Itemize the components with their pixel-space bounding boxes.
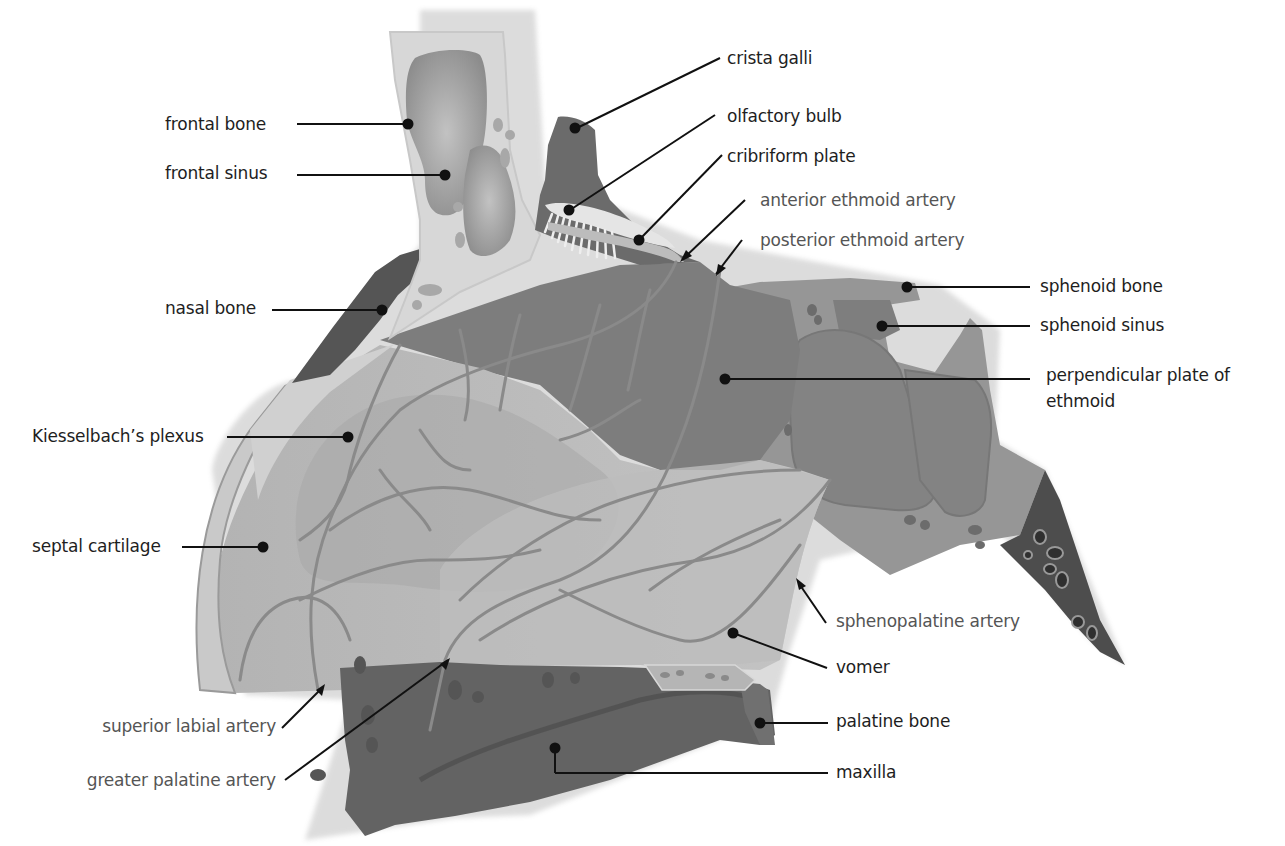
label-frontal-bone: frontal bone [165, 114, 266, 134]
label-crista-galli: crista galli [727, 48, 812, 68]
label-greater-palatine-artery: greater palatine artery [87, 770, 276, 790]
label-kiesselbachs-plexus: Kiesselbach’s plexus [32, 426, 204, 446]
label-olfactory-bulb: olfactory bulb [727, 106, 842, 126]
label-superior-labial-artery: superior labial artery [102, 716, 276, 736]
label-palatine-bone: palatine bone [836, 711, 950, 731]
label-posterior-ethmoid-artery: posterior ethmoid artery [760, 230, 964, 250]
label-maxilla: maxilla [836, 762, 896, 782]
vomer-lower-plate [645, 665, 755, 690]
label-cribriform-plate: cribriform plate [727, 146, 855, 166]
label-sphenoid-sinus: sphenoid sinus [1040, 315, 1164, 335]
label-septal-cartilage: septal cartilage [32, 536, 161, 556]
label-perpendicular-plate-of-ethmoid: perpendicular plate of ethmoid [1046, 362, 1276, 414]
label-frontal-sinus: frontal sinus [165, 163, 267, 183]
label-sphenoid-bone: sphenoid bone [1040, 276, 1163, 296]
label-anterior-ethmoid-artery: anterior ethmoid artery [760, 190, 956, 210]
label-sphenopalatine-artery: sphenopalatine artery [836, 611, 1020, 631]
label-nasal-bone: nasal bone [165, 298, 256, 318]
nasal-septum-diagram: frontal bone frontal sinus nasal bone Ki… [0, 0, 1285, 846]
label-vomer: vomer [836, 657, 889, 677]
